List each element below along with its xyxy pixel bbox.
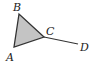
label-d: D — [79, 41, 89, 54]
label-c: C — [46, 25, 55, 38]
label-a: A — [5, 51, 14, 64]
triangle-abc — [14, 14, 44, 47]
geometry-diagram: A B C D — [0, 0, 93, 67]
label-b: B — [12, 1, 21, 14]
segment-cd — [44, 37, 78, 44]
